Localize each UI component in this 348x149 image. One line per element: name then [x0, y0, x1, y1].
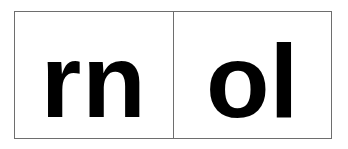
glyph-pair-rn: rn: [41, 29, 147, 133]
glyph-cell-left: rn: [15, 12, 173, 138]
glyph-comparison-table: rn ol: [14, 11, 332, 139]
glyph-cell-right: ol: [173, 12, 332, 138]
glyph-pair-ol: ol: [206, 29, 298, 133]
figure-root: rn ol: [0, 0, 348, 149]
